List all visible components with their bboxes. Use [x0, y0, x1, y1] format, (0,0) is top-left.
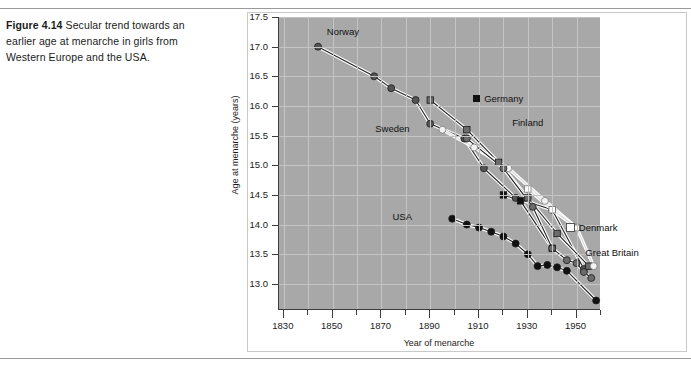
gridline-vertical	[503, 17, 504, 309]
x-axis-tick-label: 1910	[458, 320, 498, 331]
data-point-marker	[517, 198, 523, 204]
x-axis-tick-major	[478, 310, 479, 318]
gridline-vertical	[308, 17, 309, 309]
series-label-text: Denmark	[579, 222, 618, 233]
series-label-great-britain: Great Britain	[585, 247, 638, 258]
data-point-marker	[439, 126, 446, 133]
series-label-norway: Norway	[327, 26, 359, 37]
data-point-marker	[534, 263, 541, 270]
y-axis-tick-label: 13.5	[228, 248, 268, 259]
x-axis-tick-label: 1850	[312, 320, 352, 331]
x-axis-tick-minor	[454, 310, 455, 315]
data-point-marker	[554, 230, 560, 236]
data-point-marker	[593, 297, 600, 304]
gridline-vertical	[479, 17, 480, 309]
series-label-usa: USA	[392, 211, 417, 222]
series-swatch-icon	[473, 95, 480, 102]
data-point-marker	[588, 274, 595, 281]
gridline-vertical	[357, 17, 358, 309]
data-point-marker	[388, 85, 395, 92]
x-axis-tick-label: 1890	[409, 320, 449, 331]
figure-caption: Figure 4.14 Secular trend towards an ear…	[6, 17, 212, 65]
data-point-marker	[563, 267, 570, 274]
data-point-marker	[471, 144, 478, 151]
data-point-marker	[590, 263, 597, 270]
series-swatch-icon	[566, 223, 575, 232]
x-axis-tick-major	[380, 310, 381, 318]
x-axis-tick-minor	[551, 310, 552, 315]
bottom-rule	[0, 358, 691, 359]
gridline-vertical	[381, 17, 382, 309]
x-axis-tick-minor	[600, 310, 601, 315]
gridline-vertical	[406, 17, 407, 309]
series-key-germany: Germany	[473, 93, 523, 104]
y-axis-title: Age at menarche (years)	[230, 65, 240, 225]
x-axis-tick-label: 1950	[556, 320, 596, 331]
data-point-marker	[541, 197, 548, 204]
data-point-marker	[412, 97, 419, 104]
series-label-sweden: Sweden	[375, 123, 414, 134]
x-axis-tick-minor	[356, 310, 357, 315]
x-axis-tick-label: 1930	[507, 320, 547, 331]
x-axis-tick-label: 1830	[263, 320, 303, 331]
gridline-vertical	[552, 17, 553, 309]
y-axis-tick-label: 17.0	[228, 41, 268, 52]
figure-root: Figure 4.14 Secular trend towards an ear…	[0, 0, 691, 377]
gridline-vertical	[284, 17, 285, 309]
x-axis-tick-minor	[307, 310, 308, 315]
gridline-vertical	[333, 17, 334, 309]
series-label-finland: Finland	[512, 117, 543, 128]
y-axis-tick-label: 13.0	[228, 278, 268, 289]
data-point-marker	[529, 203, 536, 210]
y-axis-tick-label: 17.5	[228, 11, 268, 22]
data-point-marker	[512, 240, 519, 247]
x-axis-tick-major	[283, 310, 284, 318]
figure-caption-label: Figure 4.14	[6, 19, 63, 31]
data-point-marker	[544, 261, 551, 268]
x-axis-tick-major	[527, 310, 528, 318]
data-point-marker	[488, 228, 495, 235]
gridline-vertical	[528, 17, 529, 309]
data-point-marker	[580, 269, 587, 276]
x-axis-tick-label: 1870	[360, 320, 400, 331]
x-axis-tick-major	[429, 310, 430, 318]
gridline-vertical	[577, 17, 578, 309]
x-axis-tick-minor	[502, 310, 503, 315]
gridline-vertical	[430, 17, 431, 309]
x-axis-tick-major	[576, 310, 577, 318]
data-point-marker	[464, 126, 470, 132]
series-label-text: Germany	[484, 93, 523, 104]
x-axis-title: Year of menarche	[278, 338, 600, 348]
data-point-marker	[563, 257, 570, 264]
x-axis-tick-major	[332, 310, 333, 318]
data-point-marker	[554, 264, 561, 271]
top-rule	[0, 8, 691, 9]
gridline-vertical	[455, 17, 456, 309]
x-axis-tick-minor	[405, 310, 406, 315]
plot-area	[278, 17, 600, 310]
series-key-denmark: Denmark	[566, 222, 618, 233]
